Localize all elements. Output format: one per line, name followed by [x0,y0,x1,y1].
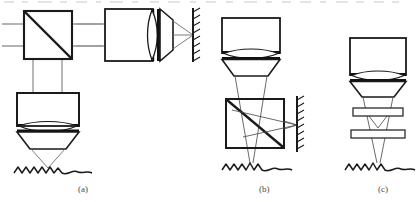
reference-mirror-hatched [193,8,200,62]
objective-cone [17,132,79,149]
rough-sample-surface [345,163,415,171]
illumination-beam-to-objective [76,24,104,46]
beamsplitter-cube [24,11,72,59]
objective-housing [222,18,280,53]
rough-sample-surface [222,163,292,171]
panel-a [2,8,200,174]
objective-cone [222,60,280,77]
figure-canvas: (a) (b) (c) [0,0,419,202]
objective-cone [350,82,406,98]
lens-element [148,9,161,61]
beamsplitter-cube [226,99,284,148]
reference-plate [353,108,403,116]
objective-housing [350,38,406,75]
rough-sample-surface [14,167,92,174]
panel-label-b: (b) [259,184,270,194]
panel-label-c: (c) [378,184,388,194]
panel-label-a: (a) [78,184,88,194]
optics-diagram [0,0,419,202]
objective-cone [160,9,173,61]
measurement-rays [31,149,65,168]
beamsplitter-plate [351,130,405,138]
panel-b [222,18,304,171]
beam-down-to-detector [33,58,62,93]
reference-arm-rays [173,21,193,49]
reference-mirror-hatched [297,96,304,152]
panel-c [345,38,415,171]
objective-housing [105,9,153,61]
